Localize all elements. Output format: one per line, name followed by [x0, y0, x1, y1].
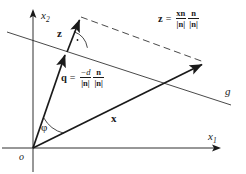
x1-axis-label: x1 — [208, 131, 217, 145]
formula-z-equals: = — [166, 13, 172, 24]
vector-z — [67, 20, 80, 52]
vector-x-label: x — [111, 113, 117, 124]
formula-q-frac1-num: −d — [79, 68, 91, 77]
origin-label: o — [19, 152, 24, 162]
formula-q-frac2-num: n — [95, 68, 102, 77]
formula-z-frac1-den: |n| — [176, 18, 186, 28]
right-angle-marker — [74, 32, 88, 48]
formula-q-frac2-den: |n| — [93, 77, 103, 87]
x2-axis-label: x2 — [41, 10, 50, 24]
formula-z-frac1-num: xn — [175, 9, 186, 18]
formula-q-frac1-den: |n| — [80, 77, 90, 87]
formula-z-lhs: z — [158, 13, 163, 24]
line-g — [7, 32, 231, 105]
formula-z-frac1: xn |n| — [175, 9, 186, 28]
formula-z: z = xn |n| n |n| — [158, 9, 200, 28]
formula-q-lhs: q — [61, 72, 67, 83]
vector-projection-figure: x2 x1 o g z x φ z = xn |n| n |n| q = −d … — [0, 0, 246, 174]
vector-x — [33, 65, 202, 149]
formula-q: q = −d |n| n |n| — [61, 68, 105, 87]
diagram-canvas — [0, 0, 246, 174]
formula-z-frac2-num: n — [190, 9, 197, 18]
formula-q-equals: = — [70, 72, 76, 83]
formula-q-frac1: −d |n| — [79, 68, 91, 87]
vector-z-label: z — [57, 28, 62, 39]
formula-z-frac2-den: |n| — [188, 18, 198, 28]
line-g-label: g — [225, 86, 231, 97]
formula-z-frac2: n |n| — [188, 9, 198, 28]
angle-phi-label: φ — [41, 122, 47, 133]
formula-q-frac2: n |n| — [93, 68, 103, 87]
